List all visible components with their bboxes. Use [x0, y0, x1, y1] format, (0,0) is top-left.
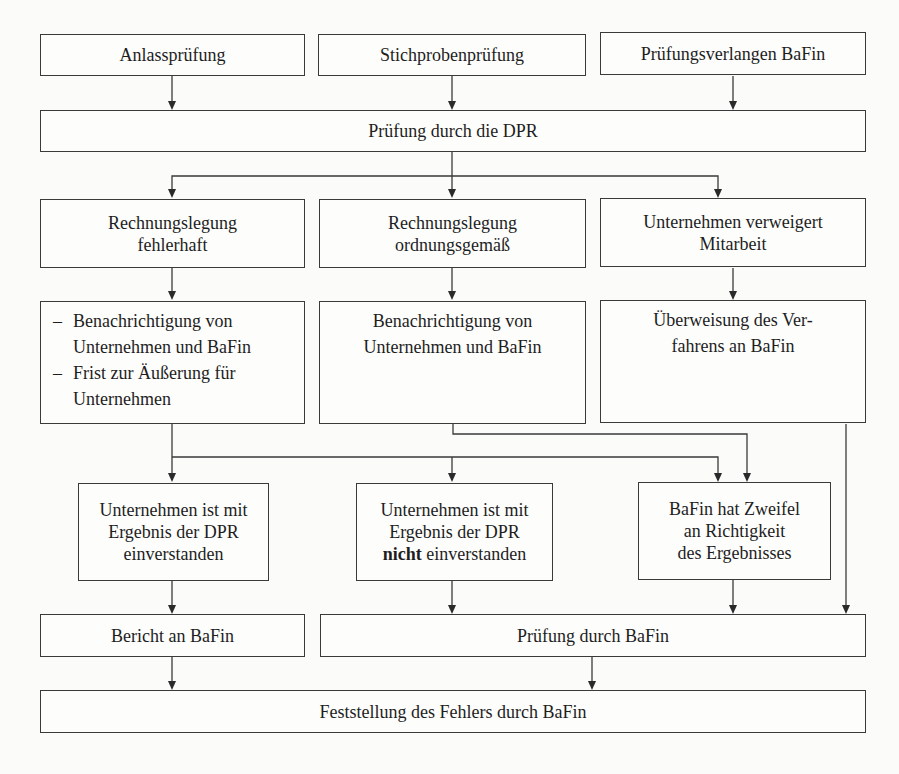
box-line-rest: einverstanden	[422, 544, 526, 564]
list-item-benachrichtigung: – Benachrichtigung von Unternehmen und B…	[53, 308, 251, 360]
box-line: Ergebnis der DPR	[108, 521, 239, 543]
box-benachrichtigung-und-frist: – Benachrichtigung von Unternehmen und B…	[40, 301, 305, 424]
box-bericht-an-bafin: Bericht an BaFin	[40, 614, 305, 657]
box-line: fahrens an BaFin	[672, 333, 795, 359]
box-line: Überweisung des Ver-	[653, 307, 812, 333]
box-label: Stichprobenprüfung	[380, 44, 524, 66]
box-line: Rechnungslegung	[388, 212, 517, 234]
box-line: Unternehmen ist mit	[381, 499, 529, 521]
box-anlasspruefung: Anlassprüfung	[40, 34, 305, 76]
box-feststellung-des-fehlers: Feststellung des Fehlers durch BaFin	[40, 690, 866, 733]
box-label: Anlassprüfung	[120, 44, 226, 66]
box-line: BaFin hat Zweifel	[669, 498, 800, 520]
box-label: Prüfung durch BaFin	[517, 625, 669, 647]
box-rechnungslegung-ordnungsgemaess: Rechnungslegung ordnungsgemäß	[319, 199, 586, 268]
box-line: Unternehmen und BaFin	[364, 334, 542, 360]
box-line: an Richtigkeit	[684, 520, 785, 542]
box-label: Bericht an BaFin	[111, 625, 234, 647]
box-line: Benachrichtigung von	[373, 308, 532, 334]
box-line: einverstanden	[124, 543, 224, 565]
list-line: Frist zur Äußerung für	[73, 363, 235, 383]
box-line: Rechnungslegung	[108, 212, 237, 234]
box-ueberweisung-an-bafin: Überweisung des Ver- fahrens an BaFin	[600, 300, 866, 423]
box-line: Mitarbeit	[700, 233, 767, 255]
box-label: Prüfungsverlangen BaFin	[641, 43, 825, 65]
list-item-frist: – Frist zur Äußerung für Unternehmen	[53, 360, 235, 412]
box-benachrichtigung-middle: Benachrichtigung von Unternehmen und BaF…	[319, 301, 586, 424]
list-line: Benachrichtigung von	[73, 311, 232, 331]
box-line: Ergebnis der DPR	[389, 521, 520, 543]
box-line: Unternehmen verweigert	[643, 211, 822, 233]
box-pruefungsverlangen-bafin: Prüfungsverlangen BaFin	[600, 32, 866, 75]
box-line: Unternehmen ist mit	[100, 499, 248, 521]
dash-bullet: –	[53, 308, 73, 360]
box-line: ordnungsgemäß	[395, 234, 510, 256]
list-line: Unternehmen	[73, 389, 171, 409]
box-line: des Ergebnisses	[677, 542, 791, 564]
list-line: Unternehmen und BaFin	[73, 337, 251, 357]
box-rechnungslegung-fehlerhaft: Rechnungslegung fehlerhaft	[40, 199, 305, 268]
box-unternehmen-nicht-einverstanden: Unternehmen ist mit Ergebnis der DPR nic…	[356, 483, 553, 581]
box-line: nicht einverstanden	[383, 543, 526, 565]
box-label: Prüfung durch die DPR	[368, 120, 538, 142]
box-unternehmen-verweigert-mitarbeit: Unternehmen verweigert Mitarbeit	[600, 198, 866, 267]
box-stichprobenpruefung: Stichprobenprüfung	[318, 34, 586, 76]
box-pruefung-durch-dpr: Prüfung durch die DPR	[40, 110, 866, 152]
box-bafin-zweifel: BaFin hat Zweifel an Richtigkeit des Erg…	[638, 482, 831, 580]
box-unternehmen-einverstanden: Unternehmen ist mit Ergebnis der DPR ein…	[78, 483, 269, 581]
dash-bullet: –	[53, 360, 73, 412]
box-line: fehlerhaft	[138, 234, 208, 256]
emphasis-nicht: nicht	[383, 544, 422, 564]
box-label: Feststellung des Fehlers durch BaFin	[320, 701, 587, 723]
box-pruefung-durch-bafin: Prüfung durch BaFin	[320, 614, 866, 657]
